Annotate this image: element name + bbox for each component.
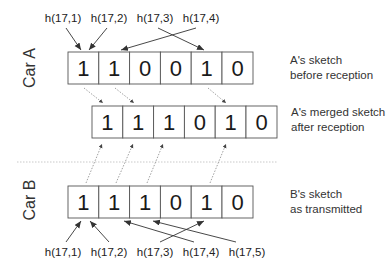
hash-label: h(17,2) (91, 246, 128, 258)
arrow-icon (121, 28, 196, 50)
arrow-icon (89, 28, 107, 50)
caption-a-before-line1: A's sketch (290, 54, 342, 66)
hash-label: h(17,3) (137, 12, 174, 24)
bit-cell: 0 (231, 56, 243, 81)
bit-cell: 1 (139, 190, 151, 215)
hash-label: h(17,1) (45, 12, 82, 24)
bit-cell: 1 (132, 110, 144, 135)
caption-b-line2: as transmitted (290, 203, 362, 215)
bit-cell: 0 (139, 56, 151, 81)
bit-cell: 0 (194, 110, 206, 135)
row-a-merged: 1 1 1 0 1 0 (92, 106, 277, 138)
arrow-icon (158, 28, 204, 50)
dotted-arrows-b-to-merged (86, 144, 226, 183)
bit-cell: 1 (77, 190, 89, 215)
sketch-merge-diagram: Car A Car B h(17,1) h(17,2) h(17,3) h(17… (0, 0, 392, 273)
hash-label: h(17,1) (45, 246, 82, 258)
bit-cell: 0 (255, 110, 267, 135)
row-b-transmitted: 1 1 1 0 1 0 (68, 186, 253, 218)
bit-cell: 1 (108, 190, 120, 215)
bit-cell: 1 (224, 110, 236, 135)
caption-a-before-line2: before reception (290, 69, 373, 81)
bottom-hash-arrows (66, 221, 236, 242)
bit-cell: 0 (170, 190, 182, 215)
top-hash-arrows (66, 28, 204, 50)
row-a-before: 1 1 0 0 1 0 (68, 52, 253, 84)
bit-cell: 0 (170, 56, 182, 81)
hash-label: h(17,3) (137, 246, 174, 258)
top-hash-labels: h(17,1) h(17,2) h(17,3) h(17,4) (45, 12, 220, 24)
car-b-label: Car B (21, 180, 38, 221)
arrow-icon (124, 221, 194, 242)
bit-cell: 0 (231, 190, 243, 215)
hash-label: h(17,4) (183, 246, 220, 258)
dotted-arrows-a-to-merged (84, 88, 226, 103)
bit-cell: 1 (200, 56, 212, 81)
caption-a-merged-line1: A's merged sketch (291, 106, 385, 118)
caption-a-merged-line2: after reception (291, 121, 365, 133)
hash-label: h(17,5) (229, 246, 266, 258)
caption-b-line1: B's sketch (290, 188, 342, 200)
arrow-icon (153, 221, 236, 242)
hash-label: h(17,4) (183, 12, 220, 24)
car-a-label: Car A (21, 48, 38, 88)
hash-label: h(17,2) (91, 12, 128, 24)
bit-cell: 1 (200, 190, 212, 215)
arrow-icon (90, 221, 109, 242)
bit-cell: 1 (77, 56, 89, 81)
arrow-icon (66, 28, 81, 50)
bottom-hash-labels: h(17,1) h(17,2) h(17,3) h(17,4) h(17,5) (45, 246, 266, 258)
bit-cell: 1 (163, 110, 175, 135)
bit-cell: 1 (108, 56, 120, 81)
arrow-icon (66, 221, 81, 242)
bit-cell: 1 (101, 110, 113, 135)
